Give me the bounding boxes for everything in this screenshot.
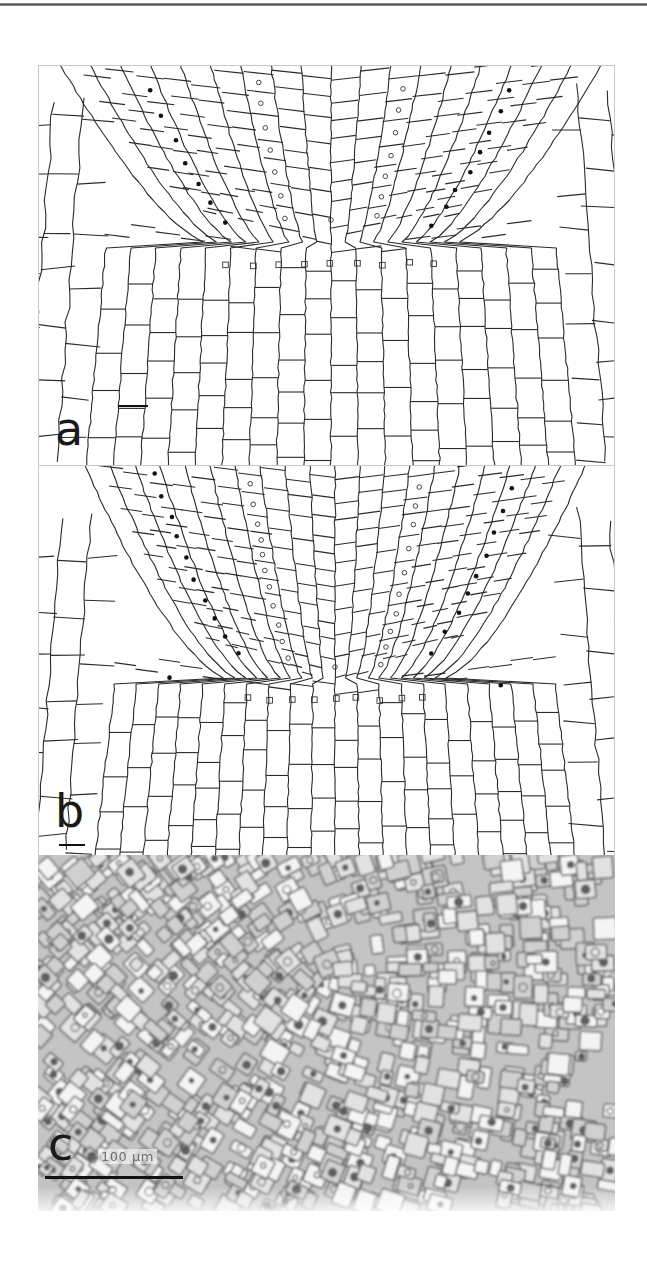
panel-b-drawing — [39, 466, 615, 856]
panel-a-scale-bar — [118, 405, 148, 407]
figure: a b c 100 µm — [38, 65, 615, 1211]
panel-a: a — [38, 65, 615, 466]
panel-c-scale-bar — [45, 1176, 183, 1179]
panel-c-label: c — [48, 1121, 73, 1167]
panel-b-scale-bar — [59, 844, 85, 846]
panel-c: c 100 µm — [38, 855, 615, 1211]
top-rule — [0, 3, 647, 6]
panel-b-label: b — [55, 788, 84, 834]
panel-b: b — [38, 465, 615, 856]
panel-c-scale-text: 100 µm — [98, 1149, 157, 1164]
panel-a-label: a — [55, 406, 83, 452]
